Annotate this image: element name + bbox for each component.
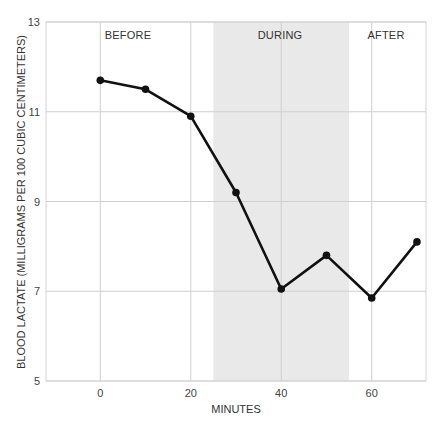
y-tick-label: 7 [34, 285, 40, 297]
x-tick-label: 60 [366, 387, 378, 399]
line-chart: BEFOREDURINGAFTER 5791113 0204060 MINUTE… [0, 0, 440, 427]
phase-label-before: BEFORE [105, 29, 151, 41]
data-point [142, 86, 150, 94]
x-axis-ticks: 0204060 [97, 387, 378, 399]
data-point [368, 294, 376, 302]
x-tick-label: 40 [275, 387, 287, 399]
x-tick-label: 20 [185, 387, 197, 399]
y-tick-label: 13 [28, 16, 40, 28]
phase-label-after: AFTER [367, 29, 404, 41]
y-tick-label: 9 [34, 196, 40, 208]
data-point [323, 252, 331, 260]
x-tick-label: 0 [97, 387, 103, 399]
phase-label-during: DURING [258, 29, 303, 41]
y-tick-label: 11 [29, 106, 40, 118]
data-point [232, 189, 240, 197]
data-point [413, 238, 421, 246]
data-point [187, 112, 195, 120]
x-axis-label: MINUTES [211, 403, 261, 415]
data-point [277, 285, 285, 293]
y-axis-label: BLOOD LACTATE (MILLIGRAMS PER 100 CUBIC … [15, 35, 27, 369]
y-tick-label: 5 [34, 375, 40, 387]
data-point [96, 77, 104, 85]
y-axis-ticks: 5791113 [28, 16, 40, 387]
